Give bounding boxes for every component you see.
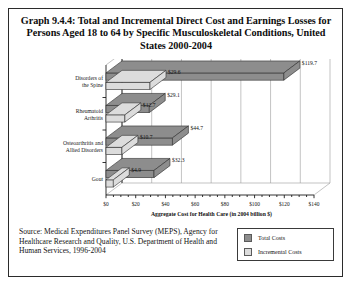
x-tick-label: $60 [191,201,199,207]
figure-frame: Graph 9.4.4: Total and Incremental Direc… [8,8,343,277]
bar-value-label: $119.7 [302,60,317,66]
bar-value-label: $12.7 [143,102,156,108]
x-tick-label: $20 [132,201,140,207]
bar-value-label: $4.9 [131,167,141,173]
chart-legend: Total Costs Incremental Costs [237,228,334,261]
category-label: Gout [23,176,103,183]
bar-value-label: $44.7 [190,125,203,131]
bar-value-label: $10.7 [140,134,153,140]
x-tick-label: $140 [309,201,320,207]
category-axis-labels: Disorders ofthe SpineRheumatoidArthritis… [21,59,103,199]
category-label: Disorders ofthe Spine [23,75,103,89]
bar-value-label: $29.6 [168,69,181,75]
category-label: RheumatoidArthritis [23,108,103,122]
x-axis-title: Aggregate Cost for Health Care (in 2004 … [104,211,319,217]
legend-swatch-total-costs [244,234,252,242]
bar-value-label: $32.3 [172,157,185,163]
x-tick-label: $40 [161,201,169,207]
legend-label-incremental-costs: Incremental Costs [258,248,302,256]
chart-plot-area: Disorders ofthe SpineRheumatoidArthritis… [9,59,344,219]
x-tick-label: $80 [221,201,229,207]
legend-label-total-costs: Total Costs [258,234,285,242]
figure-title: Graph 9.4.4: Total and Incremental Direc… [19,15,333,52]
x-tick-label: $120 [279,201,290,207]
x-tick-label: $0 [103,201,108,207]
legend-swatch-incremental-costs [244,248,252,256]
category-label: Osteoarthritis andAllied Disorders [23,140,103,154]
x-tick-label: $100 [249,201,260,207]
bar-value-label: $29.1 [167,92,180,98]
source-note: Source: Medical Expenditures Panel Surve… [19,227,229,256]
